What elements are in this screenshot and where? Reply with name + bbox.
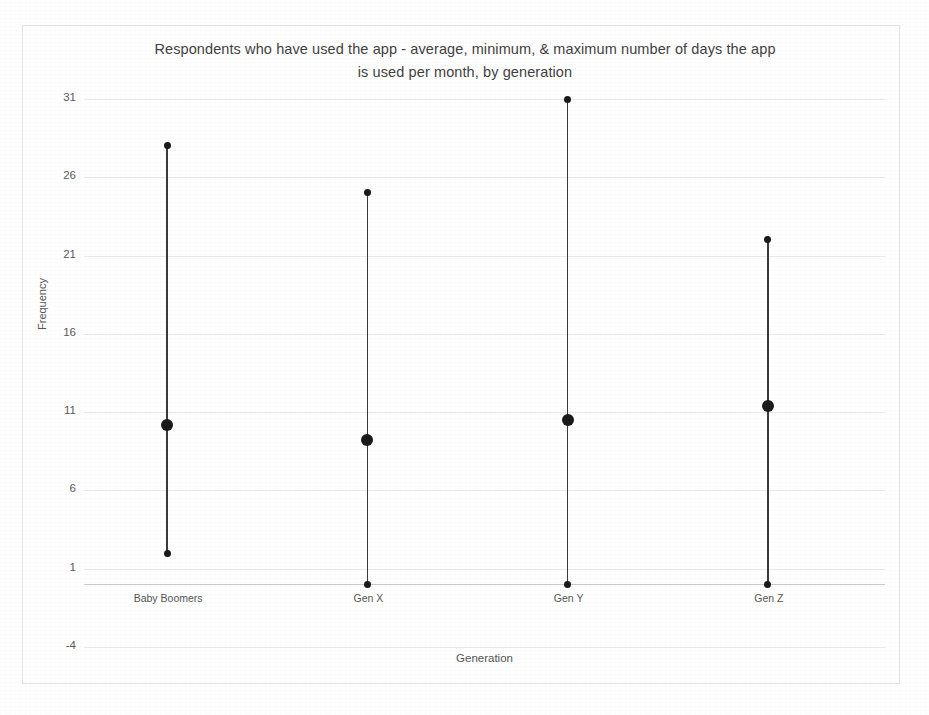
y-tick-label-21: 21 <box>36 248 76 260</box>
gridline-11 <box>84 412 885 413</box>
y-tick-label-31: 31 <box>36 91 76 103</box>
x-tick-label-baby-boomers: Baby Boomers <box>88 592 248 604</box>
minimum-marker-gen-x <box>364 581 371 588</box>
chart-title: Respondents who have used the app - aver… <box>70 38 860 84</box>
y-tick-label-6: 6 <box>36 482 76 494</box>
x-tick-label-gen-y: Gen Y <box>489 592 649 604</box>
range-line-gen-x <box>367 193 369 584</box>
average-marker-baby-boomers <box>161 419 173 431</box>
range-line-baby-boomers <box>166 146 168 553</box>
average-marker-gen-y <box>562 414 574 426</box>
gridline-31 <box>84 99 885 100</box>
minimum-marker-gen-y <box>564 581 571 588</box>
x-axis-title: Generation <box>84 652 885 664</box>
y-tick-label-16: 16 <box>36 326 76 338</box>
y-tick-label-26: 26 <box>36 169 76 181</box>
plot-area <box>84 99 885 647</box>
x-tick-label-gen-x: Gen X <box>288 592 448 604</box>
average-marker-gen-z <box>762 400 774 412</box>
gridline-6 <box>84 490 885 491</box>
y-tick-label--4: -4 <box>36 639 76 651</box>
y-tick-label-1: 1 <box>36 561 76 573</box>
y-tick-label-11: 11 <box>36 404 76 416</box>
minimum-marker-baby-boomers <box>164 550 171 557</box>
gridline-16 <box>84 334 885 335</box>
gridline-26 <box>84 177 885 178</box>
range-line-gen-z <box>767 240 769 584</box>
maximum-marker-gen-y <box>564 96 571 103</box>
chart-title-line-2: is used per month, by generation <box>70 61 860 84</box>
range-line-gen-y <box>567 99 569 584</box>
gridline-21 <box>84 256 885 257</box>
y-axis-title: Frequency <box>36 278 48 330</box>
gridline-1 <box>84 569 885 570</box>
chart-title-line-1: Respondents who have used the app - aver… <box>70 38 860 61</box>
gridline--4 <box>84 647 885 648</box>
x-tick-label-gen-z: Gen Z <box>689 592 849 604</box>
